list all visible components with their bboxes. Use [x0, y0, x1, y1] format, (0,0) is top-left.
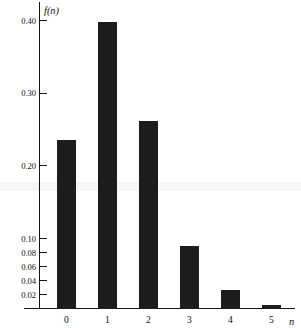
bar-n-5 [262, 305, 281, 309]
x-tick-label-4: 4 [228, 314, 233, 325]
y-tick-label-010: 0.10 [21, 234, 36, 244]
chart-canvas: 0.40 0.30 0.20 0.10 0.08 0.06 0.04 0.02 … [0, 0, 301, 328]
x-tick-labels: 0 1 2 3 4 5 [64, 314, 274, 325]
bar-n-2 [139, 121, 158, 309]
bar-n-0 [57, 140, 76, 308]
x-tick-label-0: 0 [64, 314, 69, 325]
y-tick-labels: 0.40 0.30 0.20 0.10 0.08 0.06 0.04 0.02 [21, 16, 36, 300]
bar-n-3 [180, 246, 199, 309]
y-tick-label-008: 0.08 [21, 248, 36, 258]
bar-series [57, 22, 281, 309]
x-tick-label-5: 5 [269, 314, 274, 325]
y-tick-label-006: 0.06 [21, 262, 36, 272]
y-tick-marks [40, 21, 47, 295]
x-axis-title: n [289, 316, 294, 327]
y-tick-label-002: 0.02 [21, 290, 36, 300]
bar-n-1 [98, 22, 117, 309]
y-tick-label-020: 0.20 [21, 161, 36, 171]
y-tick-label-030: 0.30 [21, 88, 36, 98]
x-tick-label-1: 1 [105, 314, 110, 325]
bar-n-4 [221, 290, 240, 308]
y-tick-label-040: 0.40 [21, 16, 36, 26]
y-axis-title: f(n) [44, 5, 60, 17]
x-tick-label-3: 3 [187, 314, 192, 325]
bar-chart-figure: 0.40 0.30 0.20 0.10 0.08 0.06 0.04 0.02 … [0, 0, 301, 328]
x-tick-label-2: 2 [146, 314, 151, 325]
y-tick-label-004: 0.04 [21, 276, 36, 286]
